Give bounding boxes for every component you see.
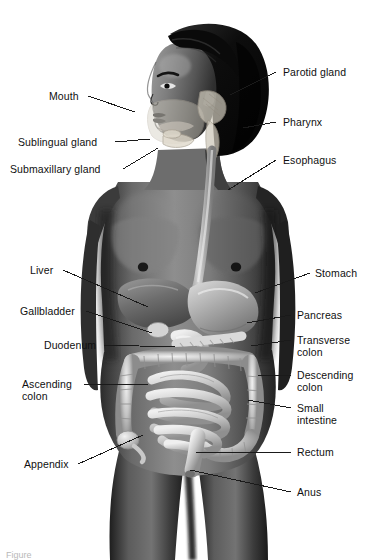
label-gallbladder: Gallbladder [20,305,75,317]
label-anus: Anus [297,486,321,498]
label-submaxillary: Submaxillary gland [10,163,101,175]
label-stomach: Stomach [315,267,357,279]
leader-submaxillary [123,148,158,169]
label-descending-colon: Descending colon [297,369,353,393]
anatomy-illustration [0,0,374,560]
anus-shape [185,471,195,478]
figure-caption: Figure [6,550,32,560]
label-rectum: Rectum [297,446,334,458]
label-pancreas: Pancreas [297,309,342,321]
label-appendix: Appendix [24,458,69,470]
digestive-system-figure: MouthSublingual glandSubmaxillary glandP… [0,0,374,560]
label-duodenum: Duodenum [44,339,96,351]
transverse-colon-shape [132,354,248,362]
label-pharynx: Pharynx [283,116,322,128]
descending-colon-shape [250,362,256,434]
gallbladder-shape [147,323,169,338]
leader-mouth [88,96,135,112]
label-esophagus: Esophagus [283,154,336,166]
label-liver: Liver [30,264,53,276]
rectum-shape [192,436,198,470]
label-small-intestine: Small intestine [297,402,337,426]
leader-sublingual [115,139,150,142]
label-ascending-colon: Ascending colon [22,378,72,402]
label-parotid-gland: Parotid gland [283,66,346,78]
label-sublingual: Sublingual gland [18,136,97,148]
label-mouth: Mouth [49,90,79,102]
label-transverse-colon: Transverse colon [297,334,350,358]
ascending-colon-shape [123,362,132,434]
